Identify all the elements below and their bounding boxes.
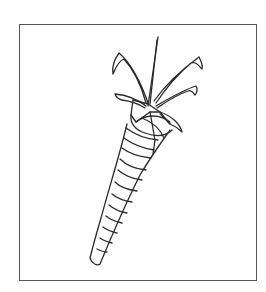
carrot-ridges [97,128,158,252]
carrot-stem [148,37,158,106]
carrot-leaves [113,53,203,132]
carrot-drawing [0,0,266,292]
carrot-body [90,124,170,265]
